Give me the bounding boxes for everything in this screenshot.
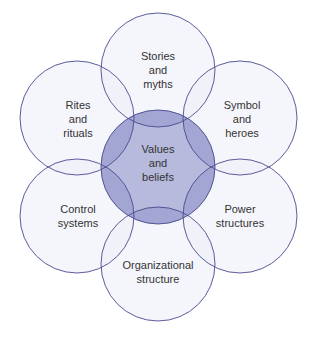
label-line: myths [141, 77, 175, 91]
label-line: and [142, 156, 175, 170]
label-organizational-structure: Organizational structure [123, 258, 194, 286]
label-line: Power [216, 202, 264, 216]
label-values-beliefs: Values and beliefs [142, 142, 175, 184]
label-line: systems [58, 216, 98, 230]
label-line: structure [123, 272, 194, 286]
label-line: Symbol [224, 98, 261, 112]
label-rites-rituals: Rites and rituals [63, 98, 92, 140]
label-line: and [63, 112, 92, 126]
label-line: and [141, 63, 175, 77]
label-line: heroes [224, 126, 261, 140]
label-line: Control [58, 202, 98, 216]
label-line: and [224, 112, 261, 126]
label-line: Stories [141, 49, 175, 63]
label-line: Values [142, 142, 175, 156]
label-control-systems: Control systems [58, 202, 98, 230]
label-line: structures [216, 216, 264, 230]
label-symbol-heroes: Symbol and heroes [224, 98, 261, 140]
label-line: beliefs [142, 170, 175, 184]
label-line: rituals [63, 126, 92, 140]
label-line: Rites [63, 98, 92, 112]
label-stories-myths: Stories and myths [141, 49, 175, 91]
label-line: Organizational [123, 258, 194, 272]
label-power-structures: Power structures [216, 202, 264, 230]
